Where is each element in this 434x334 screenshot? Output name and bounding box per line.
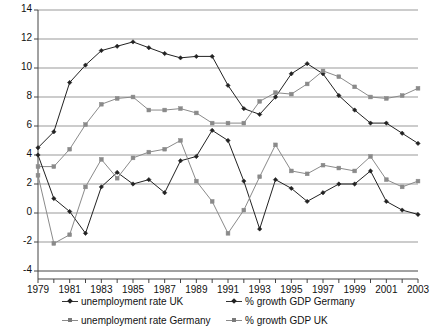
- y-axis-label-4: 4: [0, 148, 32, 159]
- legend-entry[interactable]: unemployment rate Germany: [62, 311, 211, 329]
- data-point-marker: [289, 169, 293, 173]
- data-point-marker: [321, 191, 325, 195]
- x-tick-marks: [38, 279, 418, 283]
- data-point-marker: [321, 69, 325, 73]
- data-point-marker: [178, 159, 182, 163]
- data-point-marker: [353, 169, 357, 173]
- data-point-marker: [337, 182, 341, 186]
- legend-entry[interactable]: % growth GDP Germany: [226, 292, 355, 310]
- data-point-marker: [99, 157, 103, 161]
- data-point-marker: [274, 143, 278, 147]
- data-point-marker: [147, 150, 151, 154]
- legend-item--growth-gdp-germany[interactable]: % growth GDP Germany: [226, 296, 355, 307]
- data-point-marker: [179, 139, 183, 143]
- data-point-marker: [115, 44, 119, 48]
- data-point-marker: [400, 185, 404, 189]
- y-axis-label-10: 10: [0, 61, 32, 72]
- data-point-marker: [84, 185, 88, 189]
- data-point-marker: [305, 82, 309, 86]
- legend-marker: [231, 298, 237, 304]
- data-point-marker: [131, 95, 135, 99]
- data-point-marker: [147, 46, 151, 50]
- data-point-marker: [115, 176, 119, 180]
- data-point-marker: [384, 97, 388, 101]
- data-point-marker: [162, 51, 166, 55]
- legend-marker: [232, 318, 236, 322]
- data-point-marker: [36, 173, 40, 177]
- data-point-marker: [274, 91, 278, 95]
- data-point-marker: [258, 175, 262, 179]
- data-point-marker: [178, 56, 182, 60]
- y-axis-label--4: -4: [0, 264, 32, 275]
- series-unemployment-rate-uk: [36, 40, 420, 150]
- data-point-marker: [337, 75, 341, 79]
- data-point-marker: [242, 121, 246, 125]
- y-axis-label-6: 6: [0, 119, 32, 130]
- legend-label: unemployment rate UK: [81, 296, 183, 307]
- data-point-marker: [131, 156, 135, 160]
- y-axis-label-14: 14: [0, 3, 32, 14]
- data-point-marker: [416, 179, 420, 183]
- y-axis-label--2: -2: [0, 235, 32, 246]
- data-point-marker: [273, 177, 277, 181]
- data-point-marker: [242, 208, 246, 212]
- data-point-marker: [305, 172, 309, 176]
- data-point-marker: [337, 166, 341, 170]
- data-point-marker: [258, 99, 262, 103]
- y-axis-label-12: 12: [0, 32, 32, 43]
- legend-entry[interactable]: unemployment rate UK: [62, 292, 183, 310]
- data-point-marker: [68, 147, 72, 151]
- data-point-marker: [84, 123, 88, 127]
- legend-item-unemployment-rate-germany[interactable]: unemployment rate Germany: [62, 315, 211, 326]
- legend-label: unemployment rate Germany: [81, 315, 211, 326]
- data-point-marker: [289, 92, 293, 96]
- data-point-marker: [115, 97, 119, 101]
- data-point-marker: [226, 231, 230, 235]
- chart-legend: unemployment rate UK% growth GDP Germany…: [0, 292, 423, 334]
- legend-item-unemployment-rate-uk[interactable]: unemployment rate UK: [62, 296, 183, 307]
- data-point-marker: [400, 208, 404, 212]
- data-point-marker: [321, 163, 325, 167]
- legend-marker: [68, 318, 72, 322]
- data-point-marker: [369, 95, 373, 99]
- series-line: [38, 42, 418, 148]
- data-point-marker: [36, 165, 40, 169]
- data-point-marker: [369, 155, 373, 159]
- data-point-marker: [226, 121, 230, 125]
- data-point-marker: [194, 111, 198, 115]
- y-axis-label-0: 0: [0, 206, 32, 217]
- square-marker: [226, 315, 242, 325]
- data-point-marker: [179, 107, 183, 111]
- legend-label: % growth GDP Germany: [245, 296, 355, 307]
- data-point-marker: [131, 40, 135, 44]
- data-point-marker: [68, 233, 72, 237]
- y-axis-label-8: 8: [0, 90, 32, 101]
- data-point-marker: [416, 86, 420, 90]
- data-point-marker: [147, 108, 151, 112]
- y-tick-marks: [34, 10, 38, 271]
- data-point-marker: [257, 227, 261, 231]
- series-line: [38, 141, 418, 244]
- data-point-marker: [163, 108, 167, 112]
- data-point-marker: [400, 94, 404, 98]
- diamond-marker: [62, 296, 78, 306]
- legend-marker: [67, 298, 73, 304]
- data-point-marker: [99, 102, 103, 106]
- series--growth-gdp-germany: [36, 128, 420, 235]
- data-point-marker: [353, 85, 357, 89]
- square-marker: [62, 315, 78, 325]
- data-point-marker: [384, 178, 388, 182]
- data-point-marker: [210, 54, 214, 58]
- data-point-marker: [52, 242, 56, 246]
- legend-entry[interactable]: % growth GDP UK: [226, 311, 328, 329]
- series-line: [38, 130, 418, 233]
- legend-item--growth-gdp-uk[interactable]: % growth GDP UK: [226, 315, 328, 326]
- data-point-marker: [210, 200, 214, 204]
- legend-label: % growth GDP UK: [245, 315, 328, 326]
- data-point-marker: [194, 54, 198, 58]
- y-axis-label-2: 2: [0, 177, 32, 188]
- data-point-marker: [36, 153, 40, 157]
- data-point-marker: [210, 121, 214, 125]
- data-point-marker: [242, 179, 246, 183]
